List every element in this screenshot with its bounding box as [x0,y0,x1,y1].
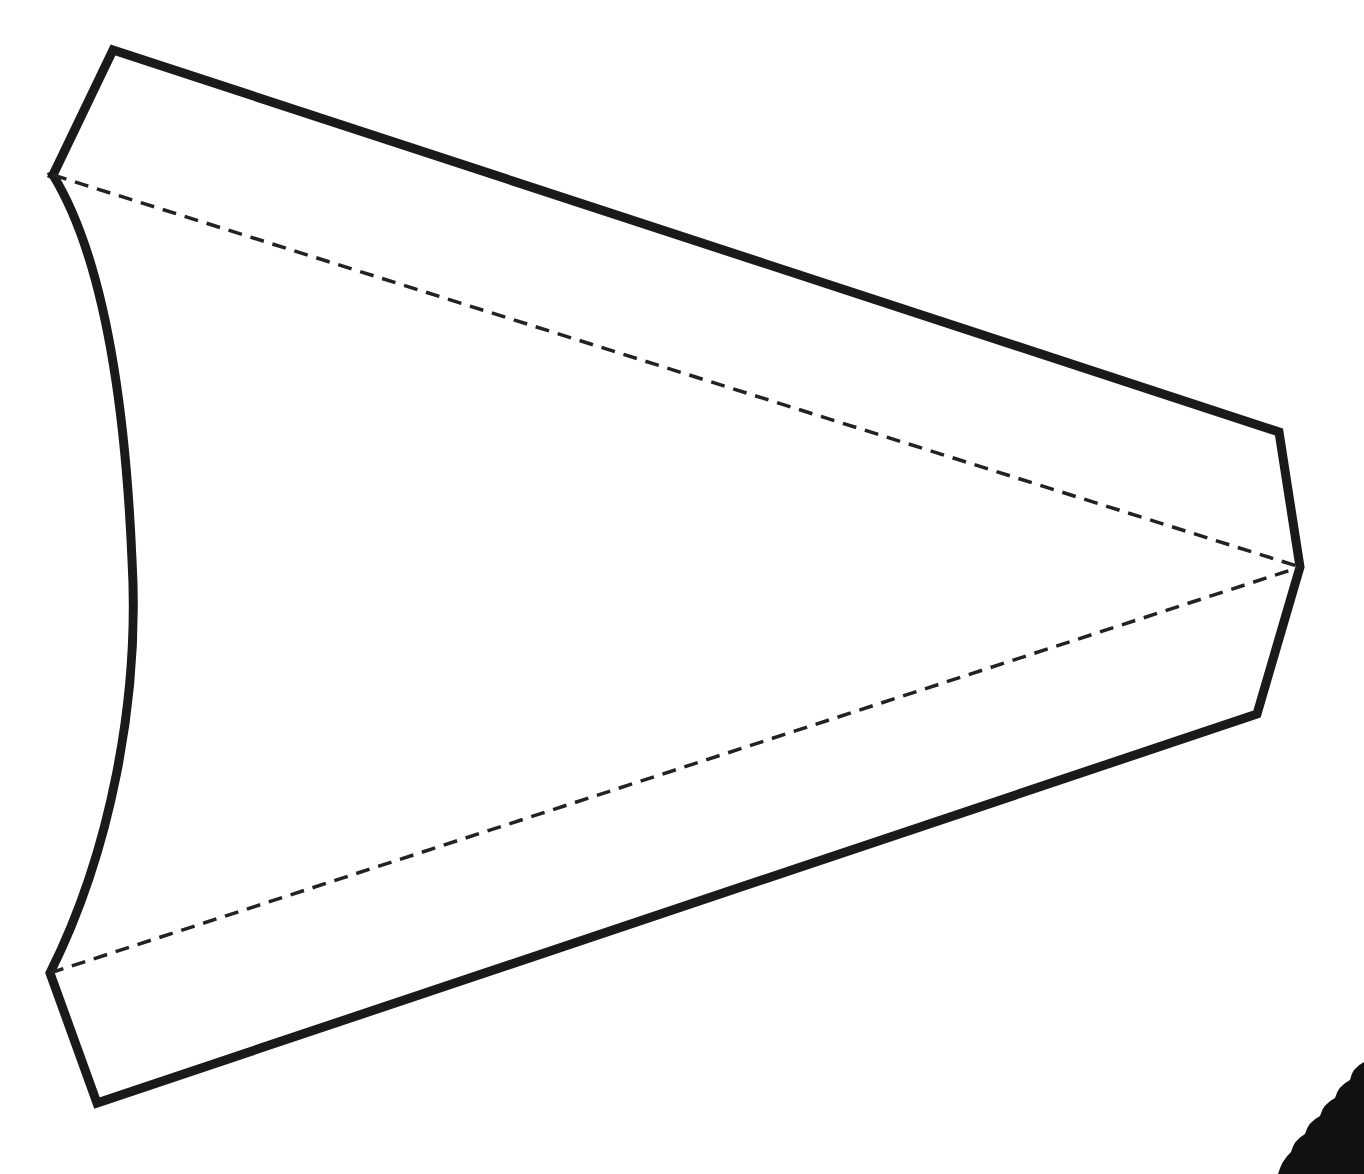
diagram-canvas [0,0,1364,1174]
scalloped-corner-shape [1278,1062,1364,1174]
template-outline [50,50,1300,1103]
